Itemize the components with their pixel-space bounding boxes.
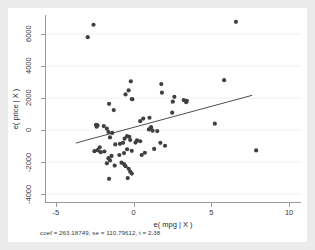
- scatter-point: [170, 111, 174, 115]
- x-tick-label: 5: [196, 208, 226, 217]
- x-tick-mark: [56, 203, 57, 207]
- stata-graph-window: -4000-20000200040006000 -50510 e( price …: [0, 0, 315, 250]
- scatter-point: [105, 161, 109, 165]
- scatter-point: [102, 149, 106, 153]
- scatter-point: [86, 35, 90, 39]
- y-tick-label: -4000: [25, 180, 33, 208]
- scatter-point: [113, 163, 117, 167]
- y-tick-mark: [41, 34, 45, 35]
- x-tick-mark: [134, 203, 135, 207]
- scatter-point: [123, 137, 127, 141]
- scatter-point: [184, 100, 188, 104]
- x-tick-label: -5: [41, 208, 71, 217]
- x-tick-mark: [289, 203, 290, 207]
- scatter-point: [123, 92, 127, 96]
- y-tick-label: 6000: [25, 20, 33, 48]
- scatter-point: [113, 142, 117, 146]
- scatter-point: [117, 153, 121, 157]
- scatter-point: [108, 158, 112, 162]
- scatter-plot-svg: [45, 15, 300, 202]
- graph-note-caption: coef = 263.18749, se = 110.79612, t = 2.…: [40, 229, 160, 236]
- scatter-point: [158, 141, 162, 145]
- scatter-point: [112, 108, 116, 112]
- y-tick-mark: [41, 194, 45, 195]
- scatter-point: [213, 122, 217, 126]
- scatter-point: [107, 102, 111, 106]
- scatter-point: [108, 135, 112, 139]
- scatter-point: [163, 144, 167, 148]
- scatter-point: [150, 129, 154, 133]
- scatter-point: [99, 150, 103, 154]
- y-axis-title: e( price | X ): [12, 88, 20, 129]
- y-tick-mark: [41, 98, 45, 99]
- scatter-point: [122, 162, 126, 166]
- y-tick-label: -2000: [25, 148, 33, 176]
- scatter-point: [159, 82, 163, 86]
- scatter-point: [254, 148, 258, 152]
- scatter-point: [128, 138, 132, 142]
- regression-fit-line: [76, 95, 252, 143]
- scatter-point: [130, 171, 134, 175]
- y-tick-mark: [41, 66, 45, 67]
- scatter-point: [107, 177, 111, 181]
- scatter-point: [92, 149, 96, 153]
- scatter-point: [172, 95, 176, 99]
- x-tick-mark: [211, 203, 212, 207]
- scatter-point: [118, 142, 122, 146]
- x-axis-line: [45, 202, 301, 203]
- scatter-point: [160, 91, 164, 95]
- scatter-point: [95, 125, 99, 129]
- scatter-point: [234, 20, 238, 24]
- scatter-point: [155, 129, 159, 133]
- x-axis-title: e( mpg | X ): [45, 220, 301, 229]
- scatter-point: [130, 149, 134, 153]
- scatter-point: [138, 139, 142, 143]
- scatter-point: [130, 97, 134, 101]
- scatter-point: [125, 147, 129, 151]
- scatter-point: [152, 147, 156, 151]
- scatter-point: [138, 119, 142, 123]
- scatter-point: [140, 153, 144, 157]
- y-axis-line: [45, 15, 46, 203]
- plot-region: [45, 15, 300, 202]
- scatter-point: [171, 100, 175, 104]
- y-tick-label: 4000: [25, 52, 33, 80]
- scatter-point: [127, 88, 131, 92]
- scatter-point: [147, 127, 151, 131]
- y-tick-label: 0: [25, 116, 33, 144]
- scatter-point: [222, 78, 226, 82]
- scatter-point: [91, 23, 95, 27]
- scatter-point: [126, 176, 130, 180]
- x-tick-label: 0: [119, 208, 149, 217]
- scatter-point: [147, 116, 151, 120]
- y-tick-mark: [41, 130, 45, 131]
- y-tick-label: 2000: [25, 84, 33, 112]
- scatter-point: [129, 79, 133, 83]
- y-tick-mark: [41, 162, 45, 163]
- scatter-point: [122, 151, 126, 155]
- scatter-point: [133, 140, 137, 144]
- x-tick-label: 10: [274, 208, 304, 217]
